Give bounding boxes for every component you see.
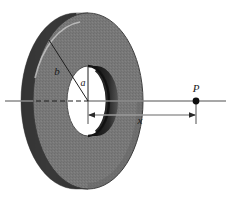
label-outer-radius: b — [54, 65, 60, 77]
physics-figure-annular-disk: b a x P — [0, 0, 231, 199]
label-field-point: P — [192, 82, 200, 94]
label-inner-radius: a — [81, 77, 86, 88]
figure-canvas: b a x P — [0, 0, 231, 199]
field-point-marker — [193, 98, 200, 105]
dimension-arrow-right — [189, 112, 196, 118]
label-axial-distance: x — [137, 114, 143, 126]
